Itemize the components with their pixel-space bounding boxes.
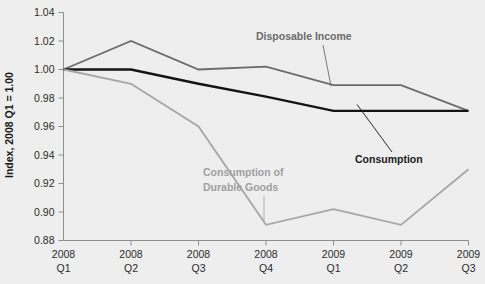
y-axis-tick-label: 0.90 xyxy=(34,206,55,218)
annotation-disposable-income: Disposable Income xyxy=(256,30,352,42)
chart-container: Index, 2008 Q1 = 1.00 0.880.900.920.940.… xyxy=(0,0,485,284)
annotation-durable-goods-line1: Consumption of xyxy=(203,166,284,178)
annotation-consumption: Consumption xyxy=(355,153,423,165)
x-axis-tick-label-year: 2009 xyxy=(322,248,346,260)
y-axis-title: Index, 2008 Q1 = 1.00 xyxy=(3,72,15,178)
y-axis-tick-label: 0.96 xyxy=(34,120,55,132)
y-axis-tick-label: 1.02 xyxy=(34,35,55,47)
x-axis-tick-label-year: 2009 xyxy=(389,248,413,260)
y-axis-tick-label: 0.94 xyxy=(34,149,55,161)
x-axis-tick-label-year: 2008 xyxy=(187,248,211,260)
y-axis-tick-label: 0.98 xyxy=(34,92,55,104)
x-axis-tick-label-quarter: Q3 xyxy=(461,262,475,274)
x-axis-tick-label-quarter: Q1 xyxy=(326,262,340,274)
x-axis-tick-label-quarter: Q2 xyxy=(124,262,138,274)
annotation-durable-goods-line2: Durable Goods xyxy=(203,181,278,193)
x-axis-tick-label-year: 2008 xyxy=(52,248,76,260)
x-axis-tick-label-quarter: Q1 xyxy=(56,262,70,274)
y-axis-tick-label: 1.00 xyxy=(34,63,55,75)
x-axis-tick-label-quarter: Q3 xyxy=(191,262,205,274)
x-axis-tick-label-quarter: Q2 xyxy=(394,262,408,274)
x-axis-tick-label-year: 2009 xyxy=(457,248,481,260)
y-axis-tick-label: 0.92 xyxy=(34,177,55,189)
y-axis-tick-label: 0.88 xyxy=(34,234,55,246)
x-axis-tick-label-quarter: Q4 xyxy=(259,262,273,274)
x-axis-tick-label-year: 2008 xyxy=(254,248,278,260)
chart-background xyxy=(0,0,485,284)
y-axis-tick-label: 1.04 xyxy=(34,6,55,18)
x-axis-tick-label-year: 2008 xyxy=(119,248,143,260)
line-chart: Index, 2008 Q1 = 1.00 0.880.900.920.940.… xyxy=(0,0,485,284)
